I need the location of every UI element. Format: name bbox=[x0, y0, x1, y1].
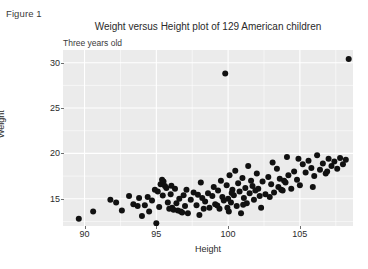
x-tick-mark bbox=[228, 226, 229, 229]
data-point bbox=[229, 190, 235, 196]
data-point bbox=[146, 208, 152, 214]
data-point bbox=[271, 189, 277, 195]
x-axis-tick-marks bbox=[63, 226, 353, 230]
data-point bbox=[196, 212, 202, 218]
data-point bbox=[113, 199, 119, 205]
x-axis-label: Height bbox=[63, 244, 353, 254]
data-point bbox=[326, 156, 332, 162]
data-point bbox=[278, 187, 284, 193]
y-tick-label: 15 bbox=[40, 194, 60, 204]
data-point bbox=[281, 178, 287, 184]
data-point bbox=[239, 175, 245, 181]
data-point bbox=[188, 197, 194, 203]
data-point bbox=[156, 204, 162, 210]
data-point bbox=[294, 177, 300, 183]
data-point bbox=[119, 208, 125, 214]
data-point bbox=[258, 205, 264, 211]
plot-panel bbox=[63, 50, 353, 226]
data-point bbox=[260, 179, 266, 185]
y-tick-label: 25 bbox=[40, 103, 60, 113]
data-point bbox=[274, 166, 280, 172]
data-point bbox=[195, 192, 201, 198]
data-point bbox=[218, 178, 224, 184]
data-point bbox=[228, 199, 234, 205]
data-point bbox=[209, 193, 215, 199]
x-tick-label: 105 bbox=[285, 229, 315, 239]
x-tick-mark bbox=[300, 226, 301, 229]
data-point bbox=[288, 186, 294, 192]
data-point bbox=[240, 202, 246, 208]
y-tick-label: 30 bbox=[40, 58, 60, 68]
data-point bbox=[202, 199, 208, 205]
data-point bbox=[254, 170, 260, 176]
y-axis-tick-marks bbox=[60, 50, 64, 226]
data-point bbox=[183, 187, 189, 193]
data-point bbox=[241, 195, 247, 201]
data-point bbox=[242, 185, 248, 191]
data-point bbox=[227, 172, 233, 178]
data-point bbox=[268, 181, 274, 187]
x-tick-label: 90 bbox=[70, 229, 100, 239]
data-point bbox=[238, 210, 244, 216]
x-tick-label: 95 bbox=[141, 229, 171, 239]
data-point bbox=[222, 71, 228, 77]
data-point bbox=[168, 191, 174, 197]
data-point bbox=[152, 187, 158, 193]
data-point bbox=[310, 184, 316, 190]
data-point bbox=[185, 210, 191, 216]
data-point bbox=[267, 194, 273, 200]
y-tick-label: 20 bbox=[40, 148, 60, 158]
data-point bbox=[285, 172, 291, 178]
data-point bbox=[126, 193, 132, 199]
data-point bbox=[224, 182, 230, 188]
data-point bbox=[297, 182, 303, 188]
data-point bbox=[291, 169, 297, 175]
data-point bbox=[317, 167, 323, 173]
data-point bbox=[179, 209, 185, 215]
data-point bbox=[265, 174, 271, 180]
y-axis-label: Weight bbox=[0, 110, 6, 138]
y-tick-mark bbox=[61, 153, 64, 154]
data-point bbox=[306, 158, 312, 164]
data-point bbox=[90, 208, 96, 214]
data-point bbox=[165, 199, 171, 205]
data-point bbox=[201, 206, 207, 212]
data-point bbox=[311, 173, 317, 179]
data-point bbox=[136, 195, 142, 201]
data-point bbox=[214, 203, 220, 209]
y-axis-tick-labels: 15202530 bbox=[38, 50, 60, 226]
data-point bbox=[181, 192, 187, 198]
y-tick-mark bbox=[61, 63, 64, 64]
y-tick-mark bbox=[61, 108, 64, 109]
data-point bbox=[206, 205, 212, 211]
data-point bbox=[235, 180, 241, 186]
data-point bbox=[232, 168, 238, 174]
data-point bbox=[303, 169, 309, 175]
data-point bbox=[198, 179, 204, 185]
data-point bbox=[320, 160, 326, 166]
data-point bbox=[142, 202, 148, 208]
data-point bbox=[160, 193, 166, 199]
data-point bbox=[270, 159, 276, 165]
data-point bbox=[135, 203, 141, 209]
data-point bbox=[251, 197, 257, 203]
data-point bbox=[139, 213, 145, 219]
data-point bbox=[255, 186, 261, 192]
data-point bbox=[308, 165, 314, 171]
data-point bbox=[76, 216, 82, 222]
data-point bbox=[194, 202, 200, 208]
data-point bbox=[300, 161, 306, 167]
data-point bbox=[324, 169, 330, 175]
data-point bbox=[337, 155, 343, 161]
data-point bbox=[334, 166, 340, 172]
data-point bbox=[295, 156, 301, 162]
data-point bbox=[226, 208, 232, 214]
data-point bbox=[215, 188, 221, 194]
data-point bbox=[149, 198, 155, 204]
data-point bbox=[247, 190, 253, 196]
data-point bbox=[314, 152, 320, 158]
y-tick-mark bbox=[61, 199, 64, 200]
data-point bbox=[237, 189, 243, 195]
x-axis-tick-labels: 9095100105 bbox=[63, 229, 353, 243]
data-point bbox=[248, 178, 254, 184]
